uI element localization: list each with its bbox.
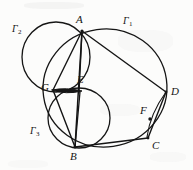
geometry-figure: A B C D E F G Γ1 Γ2 Γ3 [0,0,193,170]
circle-label-gamma3: Γ3 [30,126,40,138]
point-label-e: E [77,74,84,85]
point-b-dot [73,145,76,148]
gamma1-symbol: Γ [123,15,129,26]
figure-canvas [0,0,193,170]
point-d-dot [165,91,168,94]
point-label-g: G [41,82,49,93]
gamma2-subscript: 2 [18,28,22,36]
circle-label-gamma2: Γ2 [12,24,22,36]
point-label-c: C [152,140,159,151]
point-label-d: D [171,86,179,97]
circle-label-gamma1: Γ1 [123,16,133,28]
point-f-dot [148,117,151,120]
gamma2-symbol: Γ [12,23,18,34]
segment-c-d [148,92,166,138]
point-label-b: B [70,151,77,162]
gamma3-subscript: 3 [36,130,40,138]
point-label-f: F [140,105,147,116]
gamma3-symbol: Γ [30,125,36,136]
point-label-a: A [76,14,83,25]
gamma1-subscript: 1 [129,20,133,28]
point-a-dot [80,29,83,32]
segment-a-d [82,31,166,92]
segment-b-c [75,138,148,147]
point-c-dot [147,137,150,140]
